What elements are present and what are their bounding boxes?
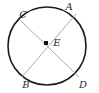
center-point-marker xyxy=(44,41,48,45)
point-label-b: B xyxy=(22,80,29,90)
point-label-a: A xyxy=(65,2,72,12)
chord-a-b xyxy=(22,14,76,77)
geometry-figure: A C E B D xyxy=(0,0,99,93)
point-label-c: C xyxy=(19,10,27,20)
point-label-e: E xyxy=(53,38,60,48)
point-label-d: D xyxy=(79,80,87,90)
